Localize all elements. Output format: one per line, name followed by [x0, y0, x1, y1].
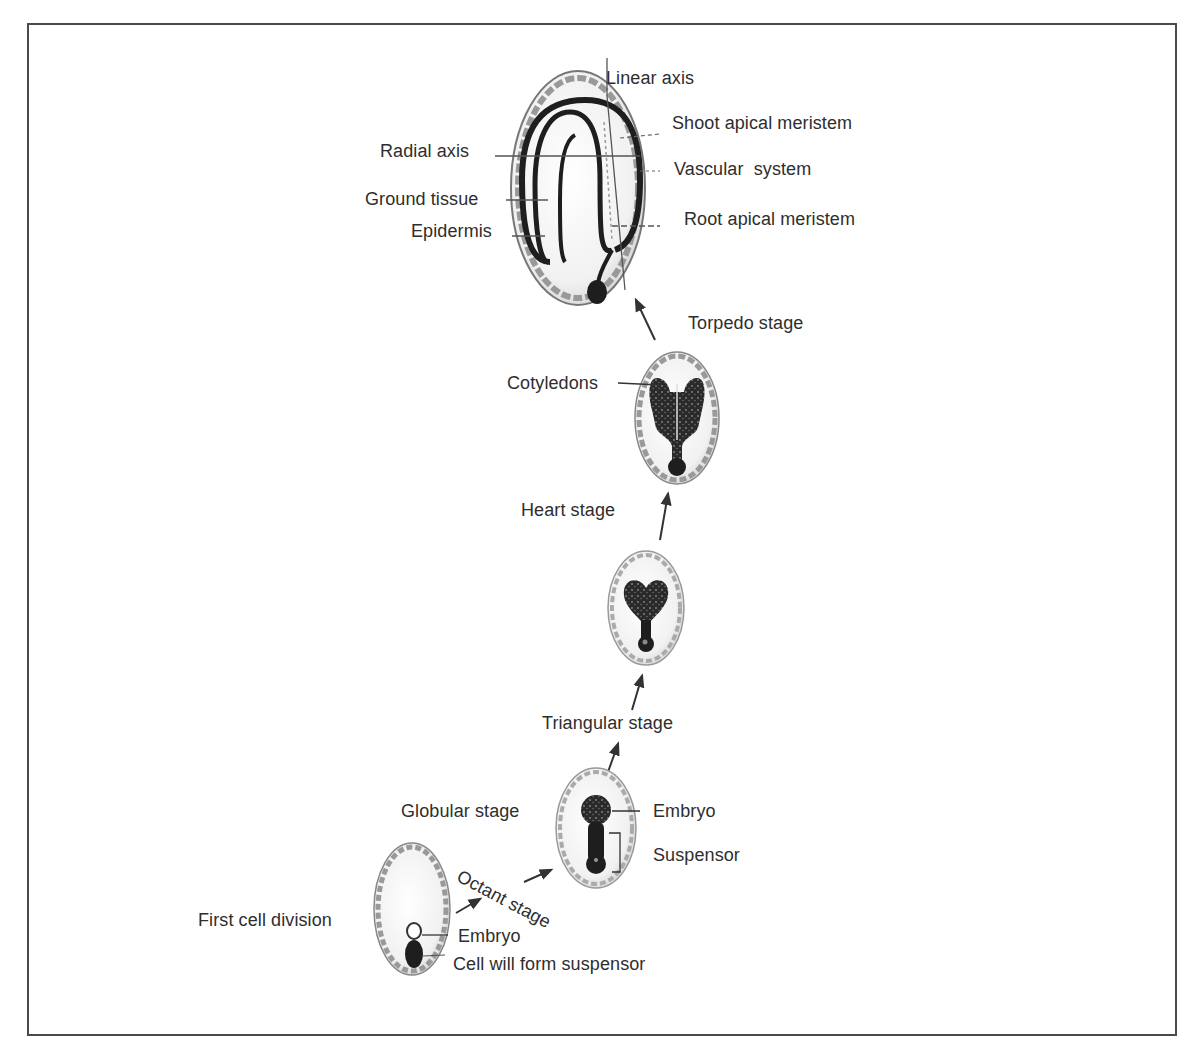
- label-cotyledons: Cotyledons: [507, 373, 598, 393]
- label-linear-axis: Linear axis: [606, 68, 694, 88]
- label-heart-stage: Heart stage: [521, 500, 615, 520]
- label-first-cell-division: First cell division: [198, 910, 332, 930]
- label-cell-will-form-suspensor: Cell will form suspensor: [453, 954, 645, 974]
- label-root-apical-meristem: Root apical meristem: [684, 209, 855, 229]
- label-triangular-stage: Triangular stage: [542, 713, 673, 733]
- torpedo-stage-seed: [618, 352, 719, 484]
- label-radial-axis: Radial axis: [380, 141, 469, 161]
- arrow-torpedo-to-mature: [636, 300, 655, 340]
- embryo-development-diagram: [0, 0, 1200, 1051]
- arrow-globular-to-triangular: [608, 744, 618, 772]
- arrow-first-to-octant: [456, 899, 480, 913]
- label-vascular-system: Vascular system: [674, 159, 811, 179]
- heart-stage-seed: [608, 551, 684, 665]
- label-epidermis: Epidermis: [411, 221, 492, 241]
- arrow-heart-to-torpedo: [660, 494, 668, 540]
- globular-stage-seed: [556, 768, 640, 888]
- arrow-triangular-to-heart: [632, 676, 642, 710]
- label-ground-tissue: Ground tissue: [365, 189, 478, 209]
- first-cell-division-seed: [374, 843, 450, 975]
- mature-embryo-seed: [495, 58, 660, 305]
- label-first-embryo: Embryo: [458, 926, 521, 946]
- label-suspensor: Suspensor: [653, 845, 740, 865]
- label-globular-embryo: Embryo: [653, 801, 716, 821]
- arrow-octant-to-globular: [524, 870, 551, 882]
- label-shoot-apical-meristem: Shoot apical meristem: [672, 113, 852, 133]
- label-torpedo-stage: Torpedo stage: [688, 313, 803, 333]
- label-globular-stage: Globular stage: [401, 801, 519, 821]
